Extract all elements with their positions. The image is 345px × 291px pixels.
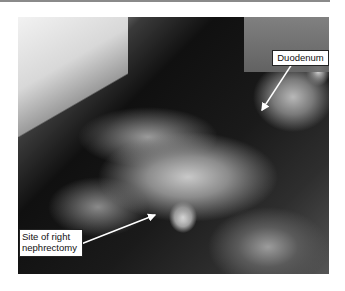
- top-rule: [0, 0, 330, 2]
- nephrectomy-label-line2: nephrectomy: [22, 242, 80, 253]
- duodenum-label-text: Duodenum: [277, 52, 323, 63]
- retractor-region: [18, 17, 128, 137]
- nephrectomy-label: Site of right nephrectomy: [19, 229, 83, 257]
- nephrectomy-label-line1: Site of right: [22, 231, 80, 242]
- duodenum-label: Duodenum: [272, 50, 329, 66]
